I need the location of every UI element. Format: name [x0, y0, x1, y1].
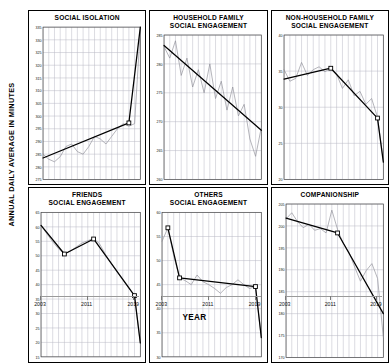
- plot-area: 60555045403530: [151, 209, 263, 360]
- svg-text:265: 265: [157, 150, 163, 154]
- x-axis-tick: [40, 296, 41, 300]
- plot-svg: 60555045403530: [151, 209, 263, 360]
- x-axis-title: YEAR: [0, 313, 389, 322]
- svg-text:325: 325: [36, 51, 42, 55]
- x-axis-tick-label: 2003: [156, 301, 168, 307]
- x-axis-col-2: 200320112019: [149, 296, 267, 312]
- svg-text:280: 280: [157, 63, 163, 67]
- svg-text:60: 60: [157, 212, 161, 216]
- x-axis-col-1: 200320112019: [28, 296, 146, 312]
- panel-social-isolation: SOCIAL ISOLATION 33533032532031531030530…: [28, 10, 146, 185]
- svg-text:320: 320: [36, 64, 42, 68]
- panel-household-family-social-engagement: HOUSEHOLD FAMILY SOCIAL ENGAGEMENT 28528…: [149, 10, 267, 185]
- svg-text:275: 275: [36, 179, 42, 183]
- svg-text:20: 20: [36, 341, 40, 345]
- svg-text:260: 260: [157, 179, 163, 183]
- x-axis-tick-label: 2011: [81, 301, 92, 307]
- svg-text:55: 55: [157, 236, 161, 240]
- x-axis-tick-label: 2019: [127, 301, 139, 307]
- x-axis-tick: [330, 296, 331, 300]
- x-axis-line: [285, 296, 382, 297]
- svg-text:40: 40: [278, 34, 282, 38]
- plot-svg: 335330325320315310305300295290285280275: [30, 24, 142, 183]
- plot-area: 205200195190185180175170: [273, 201, 385, 360]
- svg-text:270: 270: [157, 121, 163, 125]
- panel-title: NON-HOUSEHOLD FAMILY SOCIAL ENGAGEMENT: [272, 11, 388, 32]
- svg-text:315: 315: [36, 77, 42, 81]
- panel-companionship: COMPANIONSHIP 205200195190185180175170: [271, 187, 389, 363]
- x-axis-tick: [255, 296, 256, 300]
- svg-text:30: 30: [157, 356, 161, 360]
- svg-text:195: 195: [278, 247, 284, 251]
- x-axis-tick-label: 2019: [370, 301, 382, 307]
- plot-area: 4035302520: [273, 32, 385, 182]
- panel-title: OTHERS SOCIAL ENGAGEMENT: [150, 188, 266, 209]
- x-axis-row: 200320112019 200320112019 200320112019: [28, 296, 389, 312]
- x-axis-tick-label: 2011: [325, 301, 336, 307]
- x-axis-line: [161, 296, 260, 297]
- x-axis-tick: [285, 296, 286, 300]
- svg-text:305: 305: [36, 102, 42, 106]
- plot-svg: 6560555045403530252015: [30, 209, 142, 360]
- plot-area: 6560555045403530252015: [30, 209, 142, 360]
- svg-text:285: 285: [157, 34, 163, 38]
- svg-text:35: 35: [157, 332, 161, 336]
- plot-area: 335330325320315310305300295290285280275: [30, 24, 142, 183]
- x-axis-tick-label: 2019: [249, 301, 261, 307]
- x-axis-tick: [133, 296, 134, 300]
- svg-text:25: 25: [278, 143, 282, 147]
- x-axis-col-3: 200320112019: [271, 296, 389, 312]
- svg-text:25: 25: [36, 327, 40, 331]
- panel-title: SOCIAL ISOLATION: [29, 11, 145, 24]
- panel-friends-social-engagement: FRIENDS SOCIAL ENGAGEMENT 65605550454035…: [28, 187, 146, 363]
- svg-text:65: 65: [36, 212, 40, 216]
- plot-svg: 285280275270265260: [151, 32, 263, 182]
- svg-text:50: 50: [157, 260, 161, 264]
- svg-text:300: 300: [36, 115, 42, 119]
- svg-text:170: 170: [278, 356, 284, 360]
- svg-text:20: 20: [278, 179, 282, 183]
- y-axis-title: ANNUAL DAILY AVERAGE IN MINUTES: [7, 55, 16, 255]
- x-axis-tick-label: 2003: [34, 301, 46, 307]
- x-axis-tick: [161, 296, 162, 300]
- panel-title: FRIENDS SOCIAL ENGAGEMENT: [29, 188, 145, 209]
- svg-text:60: 60: [36, 226, 40, 230]
- svg-text:45: 45: [36, 269, 40, 273]
- svg-text:310: 310: [36, 90, 42, 94]
- x-axis-tick: [376, 296, 377, 300]
- panel-others-social-engagement: OTHERS SOCIAL ENGAGEMENT 60555045403530: [149, 187, 267, 363]
- svg-text:40: 40: [36, 284, 40, 288]
- svg-text:285: 285: [36, 153, 42, 157]
- panel-grid: SOCIAL ISOLATION 33533032532031531030530…: [28, 10, 389, 296]
- x-axis-line: [40, 296, 139, 297]
- svg-text:330: 330: [36, 39, 42, 43]
- panel-title: HOUSEHOLD FAMILY SOCIAL ENGAGEMENT: [150, 11, 266, 32]
- svg-text:55: 55: [36, 240, 40, 244]
- svg-text:35: 35: [278, 70, 282, 74]
- svg-text:295: 295: [36, 128, 42, 132]
- svg-text:200: 200: [278, 225, 284, 229]
- panel-title: COMPANIONSHIP: [272, 188, 388, 201]
- x-axis-tick-label: 2003: [279, 301, 291, 307]
- svg-text:50: 50: [36, 255, 40, 259]
- svg-text:45: 45: [157, 284, 161, 288]
- svg-text:190: 190: [278, 269, 284, 273]
- svg-text:15: 15: [36, 356, 40, 360]
- plot-svg: 4035302520: [273, 32, 385, 182]
- svg-text:335: 335: [36, 26, 42, 30]
- svg-text:290: 290: [36, 140, 42, 144]
- svg-text:280: 280: [36, 166, 42, 170]
- plot-svg: 205200195190185180175170: [273, 201, 385, 360]
- svg-text:205: 205: [278, 203, 284, 207]
- plot-area: 285280275270265260: [151, 32, 263, 182]
- x-axis-tick: [208, 296, 209, 300]
- svg-text:185: 185: [278, 291, 284, 295]
- svg-text:275: 275: [157, 92, 163, 96]
- svg-text:30: 30: [278, 106, 282, 110]
- x-axis-tick: [87, 296, 88, 300]
- panel-non-household-family-social-engagement: NON-HOUSEHOLD FAMILY SOCIAL ENGAGEMENT 4…: [271, 10, 389, 185]
- svg-text:175: 175: [278, 334, 284, 338]
- x-axis-tick-label: 2011: [202, 301, 213, 307]
